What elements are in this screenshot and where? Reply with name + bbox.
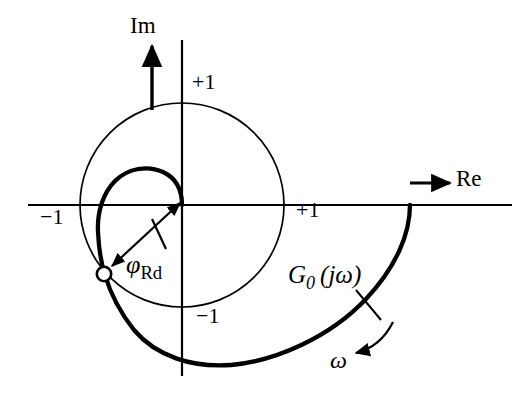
- phase-margin-label: φRd: [126, 252, 162, 283]
- g0-name: G: [288, 261, 306, 288]
- omega-direction-arrow: [356, 322, 393, 353]
- phi-subscript: Rd: [140, 262, 162, 283]
- phi-symbol: φ: [126, 250, 140, 279]
- g0-subscript: 0: [306, 273, 315, 293]
- tick-label-real-positive-one: +1: [296, 199, 319, 221]
- real-axis-label: Re: [456, 167, 482, 190]
- tick-label-imaginary-positive-one: +1: [192, 71, 215, 93]
- nyquist-plot-canvas: [0, 0, 532, 399]
- nyquist-figure: Im Re +1 −1 +1 −1 φRd G0 (jω) ω: [0, 0, 532, 399]
- unit-circle-crossing-marker: [97, 267, 111, 281]
- tick-label-real-negative-one: −1: [40, 206, 63, 228]
- transfer-function-label: G0 (jω): [288, 262, 361, 292]
- g0-argument: (jω): [320, 261, 361, 288]
- omega-label: ω: [330, 348, 347, 372]
- tick-label-imaginary-negative-one: −1: [196, 305, 219, 327]
- imaginary-axis-label: Im: [130, 14, 156, 37]
